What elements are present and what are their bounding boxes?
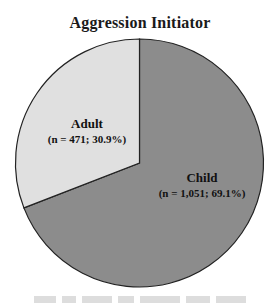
slice-value-child: (n = 1,051; 69.1%)	[142, 187, 262, 199]
slice-label-child: Child (n = 1,051; 69.1%)	[142, 170, 262, 199]
slice-label-adult: Adult (n = 471; 30.9%)	[32, 116, 142, 145]
slice-name-adult: Adult	[32, 116, 142, 132]
slice-name-child: Child	[142, 170, 262, 186]
figure-caption-illegible	[34, 296, 246, 303]
pie-chart	[0, 0, 280, 303]
slice-value-adult: (n = 471; 30.9%)	[32, 133, 142, 145]
